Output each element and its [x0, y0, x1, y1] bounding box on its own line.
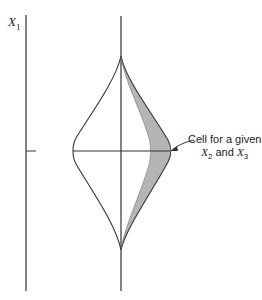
distribution-curve-left [73, 56, 121, 250]
annotation-line-1: Cell for a given [188, 133, 261, 146]
cell-annotation: Cell for a given X2 and X3 [188, 133, 261, 163]
cell-inner-boundary [121, 56, 151, 250]
arrowhead-icon [171, 146, 178, 151]
shaded-cell [121, 56, 171, 250]
annotation-line-2: X2 and X3 [188, 146, 261, 163]
x1-axis-label: X1 [8, 14, 20, 32]
